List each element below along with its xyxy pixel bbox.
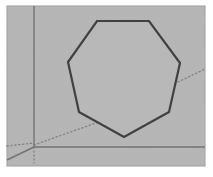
figure-root: [0, 0, 213, 177]
geometry-diagram: [0, 0, 213, 177]
